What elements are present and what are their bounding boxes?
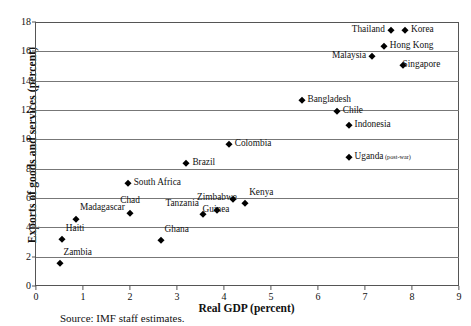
- plot-area: 024681012141618 0123456789 ZambiaHaitiMa…: [35, 22, 459, 286]
- x-tick-mark: [176, 286, 177, 290]
- x-tick-mark: [411, 286, 412, 290]
- diamond-marker-icon: [298, 96, 304, 102]
- y-tick-mark: [32, 110, 36, 111]
- diamond-marker-icon: [183, 160, 189, 166]
- data-point-label: Chad: [120, 196, 140, 205]
- data-point-label: Chile: [343, 107, 363, 116]
- data-point-label: Indonesia: [355, 120, 391, 129]
- data-point-label: Zambia: [64, 248, 92, 257]
- source-note: Source: IMF staff estimates.: [60, 312, 184, 324]
- data-point-label: Colombia: [235, 139, 272, 148]
- data-point-label-suffix: (post-war): [383, 153, 410, 160]
- diamond-marker-icon: [242, 200, 248, 206]
- x-tick-mark: [364, 286, 365, 290]
- x-tick-mark: [270, 286, 271, 290]
- x-tick-mark: [35, 286, 36, 290]
- data-point-label: South Africa: [134, 179, 181, 188]
- data-point-label: Thailand: [352, 25, 385, 34]
- y-tick-mark: [32, 227, 36, 228]
- x-tick-mark: [82, 286, 83, 290]
- y-tick-mark: [32, 51, 36, 52]
- diamond-marker-icon: [345, 121, 351, 127]
- gridline: [36, 169, 459, 170]
- diamond-marker-icon: [127, 209, 133, 215]
- data-point-label: Madagascar: [80, 203, 125, 212]
- diamond-marker-icon: [402, 27, 408, 33]
- diamond-marker-icon: [124, 180, 130, 186]
- x-tick-mark: [223, 286, 224, 290]
- diamond-marker-icon: [345, 154, 351, 160]
- diamond-marker-icon: [157, 237, 163, 243]
- y-tick-mark: [32, 139, 36, 140]
- x-tick-mark: [317, 286, 318, 290]
- y-tick-mark: [32, 80, 36, 81]
- diamond-marker-icon: [388, 27, 394, 33]
- y-tick-mark: [32, 168, 36, 169]
- data-point-label: Haiti: [66, 224, 85, 233]
- data-point-label: Uganda (post-war): [355, 152, 411, 161]
- gridline: [36, 227, 459, 228]
- gridline: [36, 110, 459, 111]
- data-point-label: Bangladesh: [308, 95, 351, 104]
- y-tick-mark: [32, 256, 36, 257]
- diamond-marker-icon: [369, 52, 375, 58]
- diamond-marker-icon: [334, 108, 340, 114]
- y-tick-mark: [32, 198, 36, 199]
- gridline: [36, 257, 459, 258]
- gridline: [36, 81, 459, 82]
- data-point-label: Guinea: [203, 205, 230, 214]
- diamond-marker-icon: [225, 140, 231, 146]
- diamond-marker-icon: [56, 260, 62, 266]
- data-point-label: Singapore: [403, 60, 441, 69]
- data-point-label: Malaysia: [332, 51, 366, 60]
- data-point-label: Korea: [411, 25, 434, 34]
- x-tick-mark: [458, 286, 459, 290]
- data-point-label: Tanzania: [165, 199, 198, 208]
- diamond-marker-icon: [381, 43, 387, 49]
- data-point-label: Brazil: [192, 158, 215, 167]
- x-tick-mark: [129, 286, 130, 290]
- data-point-label: Hong Kong: [390, 42, 434, 51]
- x-axis-line: [36, 285, 459, 286]
- data-point-label: Ghana: [165, 225, 189, 234]
- gridline: [36, 51, 459, 52]
- y-tick-mark: [32, 22, 36, 23]
- gridline: [36, 198, 459, 199]
- diamond-marker-icon: [59, 236, 65, 242]
- data-point-label: Kenya: [249, 188, 273, 197]
- diamond-marker-icon: [73, 215, 79, 221]
- scatter-chart-figure: Exports of goods and services (percent) …: [0, 0, 471, 326]
